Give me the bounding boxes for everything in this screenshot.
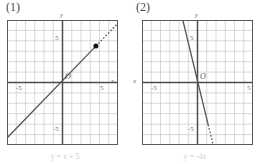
panel-1-xtick-pos5: 5 xyxy=(100,84,104,92)
panel-1-xtick-neg5: -5 xyxy=(16,84,22,92)
panel-2: (2) xyxy=(130,0,260,164)
panel-1: (1) xyxy=(0,0,130,164)
panel-2-xtick-neg5: -5 xyxy=(151,84,157,92)
panel-2-plot-border xyxy=(142,20,253,145)
panel-2-ytick-pos5: 5 xyxy=(190,34,194,42)
panel-1-label: (1) xyxy=(6,0,20,14)
panel-2-xtick-pos5: 5 xyxy=(247,84,251,92)
figure-root: (1) xyxy=(0,0,260,164)
panel-1-ytick-pos5: 5 xyxy=(55,34,59,42)
panel-1-y-axis-label: y xyxy=(60,11,63,19)
panel-2-plot-area: y x O -5 5 5 -5 xyxy=(142,20,253,145)
panel-1-origin-label: O xyxy=(65,72,71,81)
panel-2-label: (2) xyxy=(136,0,150,14)
panel-1-plot-area: y x O -5 5 5 -5 xyxy=(7,20,118,145)
panel-1-ytick-neg5: -5 xyxy=(53,125,59,133)
panel-2-x-axis-label: x xyxy=(133,77,136,85)
panel-1-x-axis-label: x xyxy=(111,77,114,85)
panel-2-ytick-neg5: -5 xyxy=(188,125,194,133)
panel-2-y-axis-label: y xyxy=(195,11,198,19)
panel-2-caption: y = -4x xyxy=(130,152,260,164)
panel-2-origin-label: O xyxy=(200,72,206,81)
panel-1-caption: y = x + 5 xyxy=(0,152,130,164)
panel-1-plot-border xyxy=(7,20,118,145)
